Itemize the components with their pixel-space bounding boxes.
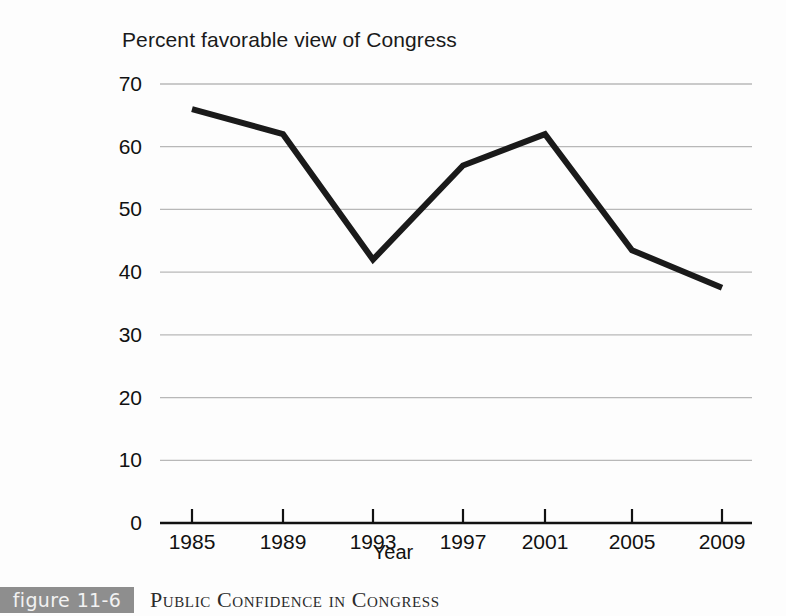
data-line-series-1: [192, 109, 722, 288]
x-axis-ticks: [192, 509, 722, 523]
figure-caption: figure 11-6 Public Confidence in Congres…: [0, 584, 786, 616]
y-axis-tick-label: 20: [96, 387, 142, 408]
figure-caption-text: Public Confidence in Congress: [150, 587, 440, 613]
y-axis-tick-label: 40: [96, 261, 142, 282]
y-axis-tick-label: 0: [96, 512, 142, 533]
figure-number-badge: figure 11-6: [0, 587, 134, 613]
y-axis-tick-label: 10: [96, 449, 142, 470]
y-axis-tick-label: 30: [96, 324, 142, 345]
y-axis-tick-label: 60: [96, 136, 142, 157]
y-axis-tick-label: 50: [96, 198, 142, 219]
figure-container: Percent favorable view of Congress 01020…: [0, 0, 786, 616]
gridlines: [160, 84, 752, 460]
x-axis-title: Year: [0, 541, 786, 564]
y-axis-tick-label: 70: [96, 73, 142, 94]
